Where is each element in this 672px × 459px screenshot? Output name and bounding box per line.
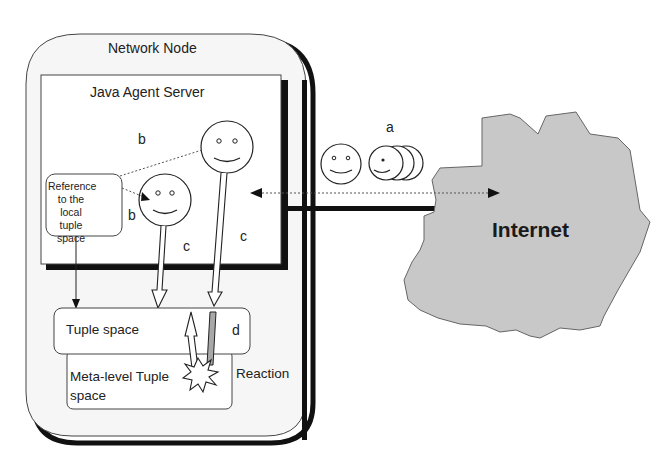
network-link-to-internet bbox=[282, 206, 440, 211]
step-label-c2: c bbox=[240, 228, 247, 244]
network-node-label: Network Node bbox=[108, 40, 197, 56]
internet-label: Internet bbox=[492, 218, 569, 242]
step-label-d: d bbox=[232, 322, 240, 338]
tuple-space-label: Tuple space bbox=[66, 322, 139, 337]
migrating-agents bbox=[321, 144, 423, 184]
step-label-b2: b bbox=[128, 207, 136, 223]
step-label-c1: c bbox=[183, 238, 190, 254]
step-label-b1: b bbox=[138, 131, 146, 147]
java-agent-server-label: Java Agent Server bbox=[90, 84, 204, 100]
reference-box-label: Reference to the local tuple space bbox=[48, 180, 94, 245]
agent-large bbox=[201, 121, 253, 173]
step-label-a: a bbox=[386, 119, 394, 135]
reaction-label: Reaction bbox=[236, 366, 289, 381]
network-bus-vertical bbox=[302, 80, 307, 440]
meta-level-tuple-space-label: Meta-level Tuple space bbox=[70, 367, 180, 405]
